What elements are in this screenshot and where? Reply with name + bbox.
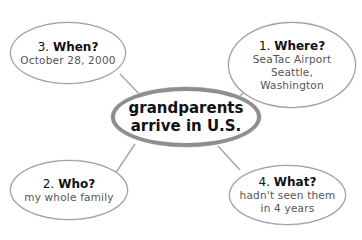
node-what-question: What? (274, 175, 317, 189)
node-what-number: 4. (259, 175, 270, 189)
node-where-answer: SeaTac Airport Seattle, Washington (253, 53, 332, 92)
node-when: 3. When? October 28, 2000 (10, 22, 126, 84)
connector-who (115, 144, 135, 174)
connector-what (218, 146, 240, 170)
node-where-question: Where? (274, 39, 325, 53)
node-when-answer: October 28, 2000 (20, 54, 115, 67)
node-who: 2. Who? my whole family (10, 160, 128, 220)
node-what-answer: hadn't seen them in 4 years (240, 189, 336, 215)
center-node: grandparents arrive in U.S. (111, 87, 261, 147)
node-where-heading: 1. Where? (259, 39, 325, 53)
node-who-answer: my whole family (24, 191, 114, 204)
node-what-heading: 4. What? (259, 175, 317, 189)
node-what: 4. What? hadn't seen them in 4 years (229, 165, 346, 225)
node-when-number: 3. (38, 40, 49, 54)
node-who-question: Who? (58, 177, 95, 191)
node-who-number: 2. (43, 177, 54, 191)
node-where: 1. Where? SeaTac Airport Seattle, Washin… (228, 22, 356, 108)
center-node-text: grandparents arrive in U.S. (129, 99, 244, 135)
node-where-number: 1. (259, 39, 270, 53)
node-who-heading: 2. Who? (43, 177, 95, 191)
node-when-question: When? (53, 40, 98, 54)
node-when-heading: 3. When? (38, 40, 99, 54)
